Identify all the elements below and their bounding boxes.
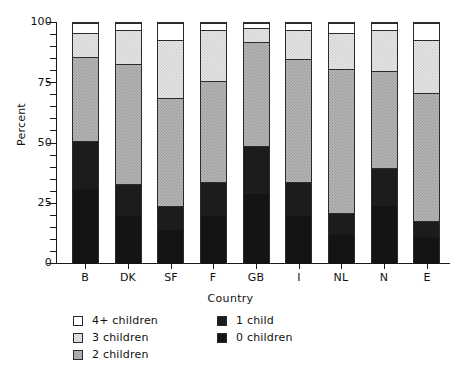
y-axis-minor-tick xyxy=(50,130,56,131)
bar-segment-3-children[interactable] xyxy=(72,33,99,57)
y-axis-minor-tick xyxy=(50,191,56,192)
legend-column-left: 4+ children3 children2 children xyxy=(73,312,158,363)
bar-segment-2-children[interactable] xyxy=(72,57,99,141)
bar-segment-0-children[interactable] xyxy=(285,216,312,264)
y-axis-minor-tick xyxy=(50,167,56,168)
bar-segment-2-children[interactable] xyxy=(157,98,184,206)
bar-segment-0-children[interactable] xyxy=(243,194,270,264)
bar-segment-4-children[interactable] xyxy=(328,23,355,33)
x-axis-tick xyxy=(427,264,428,269)
bar-segment-4-children[interactable] xyxy=(115,23,142,30)
bar-segment-4-children[interactable] xyxy=(157,23,184,40)
bar-segment-4-children[interactable] xyxy=(371,23,398,30)
bar-segment-1-child[interactable] xyxy=(200,182,227,216)
bar-segment-3-children[interactable] xyxy=(115,30,142,64)
legend-entry-3-children[interactable]: 3 children xyxy=(73,329,158,346)
bar-segment-2-children[interactable] xyxy=(328,69,355,214)
y-axis-minor-tick xyxy=(50,46,56,47)
stacked-bar[interactable] xyxy=(72,22,99,263)
stacked-bar[interactable] xyxy=(243,22,270,263)
bar-segment-2-children[interactable] xyxy=(200,81,227,182)
y-axis-major-tick xyxy=(47,22,56,23)
stacked-bar[interactable] xyxy=(115,22,142,263)
legend-label: 4+ children xyxy=(92,314,158,327)
bar-segment-3-children[interactable] xyxy=(243,28,270,42)
bar-segment-1-child[interactable] xyxy=(72,141,99,189)
x-tick-label-nl: NL xyxy=(317,271,365,284)
y-axis-minor-tick xyxy=(50,58,56,59)
bar-segment-4-children[interactable] xyxy=(413,23,440,40)
bar-segment-2-children[interactable] xyxy=(371,71,398,167)
bar-segment-4-children[interactable] xyxy=(243,23,270,28)
y-axis-major-tick xyxy=(47,263,56,264)
x-axis-tick xyxy=(256,264,257,269)
bar-segment-1-child[interactable] xyxy=(243,146,270,194)
bar-segment-0-children[interactable] xyxy=(371,206,398,264)
bar-segment-3-children[interactable] xyxy=(413,40,440,93)
bar-segment-1-child[interactable] xyxy=(371,168,398,207)
y-axis-minor-tick xyxy=(50,215,56,216)
bar-segment-1-child[interactable] xyxy=(157,206,184,230)
y-axis-minor-tick xyxy=(50,251,56,252)
bar-segment-1-child[interactable] xyxy=(413,221,440,238)
x-axis-label: Country xyxy=(0,292,461,305)
stacked-bar[interactable] xyxy=(328,22,355,263)
bar-segment-1-child[interactable] xyxy=(115,184,142,215)
y-axis-minor-tick xyxy=(50,70,56,71)
legend-swatch-icon xyxy=(73,350,83,360)
bar-segment-0-children[interactable] xyxy=(200,216,227,264)
bar-segment-1-child[interactable] xyxy=(285,182,312,216)
y-axis-minor-tick xyxy=(50,227,56,228)
bar-segment-3-children[interactable] xyxy=(200,30,227,81)
legend-label: 2 children xyxy=(92,348,149,361)
bar-segment-3-children[interactable] xyxy=(328,33,355,69)
y-axis-minor-tick xyxy=(50,106,56,107)
x-axis-tick xyxy=(341,264,342,269)
bar-segment-4-children[interactable] xyxy=(72,23,99,33)
bar-segment-3-children[interactable] xyxy=(157,40,184,98)
stacked-bar[interactable] xyxy=(285,22,312,263)
legend-label: 3 children xyxy=(92,331,149,344)
y-axis-major-tick xyxy=(47,203,56,204)
bar-segment-0-children[interactable] xyxy=(157,230,184,264)
x-axis-tick xyxy=(171,264,172,269)
y-axis-minor-tick xyxy=(50,179,56,180)
bar-segment-0-children[interactable] xyxy=(72,189,99,264)
bar-segment-2-children[interactable] xyxy=(115,64,142,185)
legend-entry-2-children[interactable]: 2 children xyxy=(73,346,158,363)
bar-segment-0-children[interactable] xyxy=(328,235,355,264)
stacked-bar[interactable] xyxy=(371,22,398,263)
bar-segment-2-children[interactable] xyxy=(413,93,440,221)
stacked-bar[interactable] xyxy=(413,22,440,263)
bar-segment-2-children[interactable] xyxy=(243,42,270,146)
legend-entry-1-child[interactable]: 1 child xyxy=(217,312,293,329)
x-tick-label-n: N xyxy=(360,271,408,284)
bar-segment-4-children[interactable] xyxy=(285,23,312,30)
x-tick-label-b: B xyxy=(61,271,109,284)
legend-entry-0-children[interactable]: 0 children xyxy=(217,329,293,346)
legend-swatch-icon xyxy=(73,333,83,343)
y-axis-minor-tick xyxy=(50,94,56,95)
x-tick-label-gb: GB xyxy=(232,271,280,284)
bar-segment-3-children[interactable] xyxy=(285,30,312,59)
bar-segment-4-children[interactable] xyxy=(200,23,227,30)
legend-swatch-icon xyxy=(73,316,83,326)
bar-segment-2-children[interactable] xyxy=(285,59,312,182)
bar-segment-1-child[interactable] xyxy=(328,213,355,235)
bar-segment-0-children[interactable] xyxy=(115,216,142,264)
x-tick-label-i: I xyxy=(275,271,323,284)
y-axis-minor-tick xyxy=(50,34,56,35)
x-axis-tick xyxy=(85,264,86,269)
y-axis-minor-tick xyxy=(50,118,56,119)
y-tick-label-75: 75 xyxy=(20,78,52,88)
legend-entry-4-children[interactable]: 4+ children xyxy=(73,312,158,329)
stacked-bar[interactable] xyxy=(157,22,184,263)
x-axis-tick xyxy=(384,264,385,269)
chart-figure: Percent 100 75 50 25 0 BDKSFFGBINLNE Cou… xyxy=(0,0,461,373)
y-axis-major-tick xyxy=(47,82,56,83)
bar-segment-3-children[interactable] xyxy=(371,30,398,71)
chart-legend: 4+ children3 children2 children 1 child0… xyxy=(73,312,373,364)
bar-segment-0-children[interactable] xyxy=(413,237,440,264)
stacked-bar[interactable] xyxy=(200,22,227,263)
y-axis-spine xyxy=(56,22,57,264)
